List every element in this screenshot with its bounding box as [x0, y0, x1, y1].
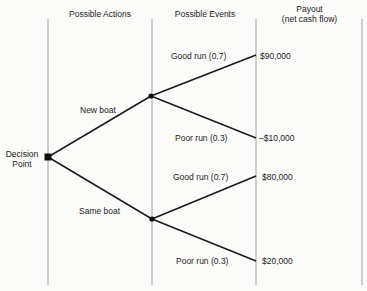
event-label: Good run (0.7) — [171, 51, 226, 61]
header-possible-events: Possible Events — [160, 9, 250, 19]
payout-value: $20,000 — [262, 256, 293, 266]
decision-tree-canvas — [0, 0, 367, 291]
branch-new-poor — [151, 96, 256, 138]
event-label: Poor run (0.3) — [175, 133, 227, 143]
branch-new-good — [151, 55, 256, 96]
branch-same-poor — [152, 219, 256, 261]
action-label-new-boat: New boat — [80, 105, 116, 115]
header-possible-actions: Possible Actions — [55, 9, 145, 19]
payout-value: –$10,000 — [259, 133, 294, 143]
chance-node-new-boat — [148, 93, 153, 98]
decision-node — [45, 154, 52, 161]
event-label: Poor run (0.3) — [176, 256, 228, 266]
header-payout-subtitle: (net cash flow) — [262, 14, 357, 24]
payout-value: $90,000 — [260, 51, 291, 61]
header-payout-title: Payout — [262, 4, 357, 14]
decision-point-label-line1: Decision — [2, 149, 42, 159]
payout-value: $80,000 — [262, 172, 293, 182]
decision-point-label-line2: Point — [2, 159, 42, 169]
event-label: Good run (0.7) — [173, 172, 228, 182]
header-payout: Payout (net cash flow) — [262, 4, 357, 24]
action-label-same-boat: Same boat — [79, 206, 120, 216]
decision-point-label: Decision Point — [2, 149, 42, 169]
chance-node-same-boat — [149, 216, 154, 221]
branch-same-good — [152, 176, 256, 219]
